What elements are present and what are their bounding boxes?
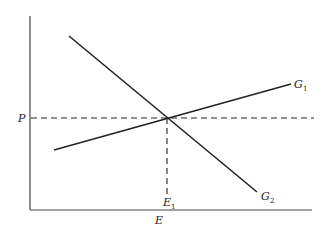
g1-label-main: G <box>294 78 303 91</box>
e1-label-sub: 1 <box>171 203 175 211</box>
intersection-diagram: P E G 1 G 2 E 1 <box>0 0 325 231</box>
g2-line <box>69 36 257 192</box>
g2-label-sub: 2 <box>270 197 274 205</box>
g1-line <box>54 84 291 150</box>
g1-label: G 1 <box>294 78 307 93</box>
y-axis-label: P <box>17 112 26 125</box>
x-axis-label: E <box>154 214 163 227</box>
g1-label-sub: 1 <box>303 85 307 93</box>
e1-label-main: E <box>162 196 171 209</box>
g2-label: G 2 <box>261 190 274 205</box>
g2-label-main: G <box>261 190 270 203</box>
e1-label: E 1 <box>162 196 175 211</box>
